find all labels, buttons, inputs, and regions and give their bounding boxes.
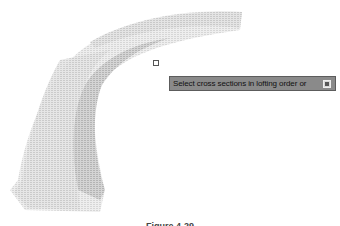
command-prompt-text: Select cross sections in lofting order o… xyxy=(173,79,323,88)
figure-caption: Figure 4-29 xyxy=(0,219,340,226)
down-arrow-options-icon[interactable] xyxy=(323,80,331,88)
pickbox-cursor xyxy=(153,60,159,66)
lofted-solid[interactable] xyxy=(0,0,340,226)
dynamic-input-tooltip: Select cross sections in lofting order o… xyxy=(169,76,336,91)
drawing-viewport[interactable]: Select cross sections in lofting order o… xyxy=(0,0,340,226)
